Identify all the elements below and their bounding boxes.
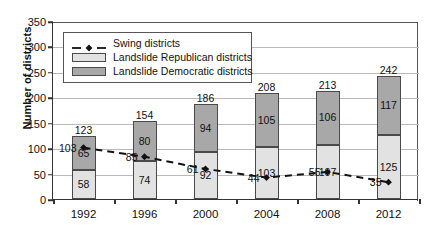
y-axis-tick-label: 50 xyxy=(34,169,46,181)
swing-data-point-marker xyxy=(141,153,148,160)
dark-gray-swatch-icon xyxy=(72,67,106,76)
swing-data-point-label: 61 xyxy=(187,163,200,175)
x-axis-tick-label: 2008 xyxy=(315,208,341,220)
swing-data-point-label: 55 xyxy=(309,166,322,178)
x-axis-tick-label: 1992 xyxy=(71,208,97,220)
legend-label-landslide-democratic: Landslide Democratic districts xyxy=(113,66,252,77)
swing-data-point-label: 35 xyxy=(370,176,383,188)
legend-label-landslide-republican: Landslide Republican districts xyxy=(113,52,252,63)
swing-data-point-label: 103 xyxy=(59,142,78,154)
swing-data-point-marker xyxy=(202,166,209,173)
y-axis-tick-label: 0 xyxy=(40,194,46,206)
legend-item-swing-districts: Swing districts xyxy=(69,37,246,50)
swing-data-point-label: 44 xyxy=(248,172,261,184)
swing-data-point-marker xyxy=(263,174,270,181)
swing-data-point-marker xyxy=(324,169,331,176)
x-axis-tick xyxy=(419,199,421,204)
y-axis-tick-label: 200 xyxy=(28,92,46,104)
legend-item-landslide-democratic: Landslide Democratic districts xyxy=(69,65,246,78)
y-axis-tick-label: 100 xyxy=(28,143,46,155)
light-gray-swatch-icon xyxy=(72,53,106,62)
swing-data-point-label: 85 xyxy=(126,151,139,163)
chart-legend: Swing districts Landslide Republican dis… xyxy=(63,32,252,83)
swing-data-point-marker xyxy=(80,144,87,151)
y-axis-tick-label: 150 xyxy=(28,118,46,130)
y-axis-tick-label: 250 xyxy=(28,67,46,79)
chart-container: Number of districts 05010015020025030035… xyxy=(0,0,429,230)
legend-label-swing-districts: Swing districts xyxy=(113,38,180,49)
x-axis-tick-label: 2000 xyxy=(193,208,219,220)
swing-data-point-marker xyxy=(385,179,392,186)
dashed-line-marker-icon xyxy=(72,39,106,49)
x-axis-tick-label: 1996 xyxy=(132,208,158,220)
y-axis-tick-label: 300 xyxy=(28,41,46,53)
x-axis-tick-label: 2004 xyxy=(254,208,280,220)
y-axis-tick-label: 350 xyxy=(28,16,46,28)
x-axis-tick-label: 2012 xyxy=(376,208,402,220)
legend-item-landslide-republican: Landslide Republican districts xyxy=(69,51,246,64)
